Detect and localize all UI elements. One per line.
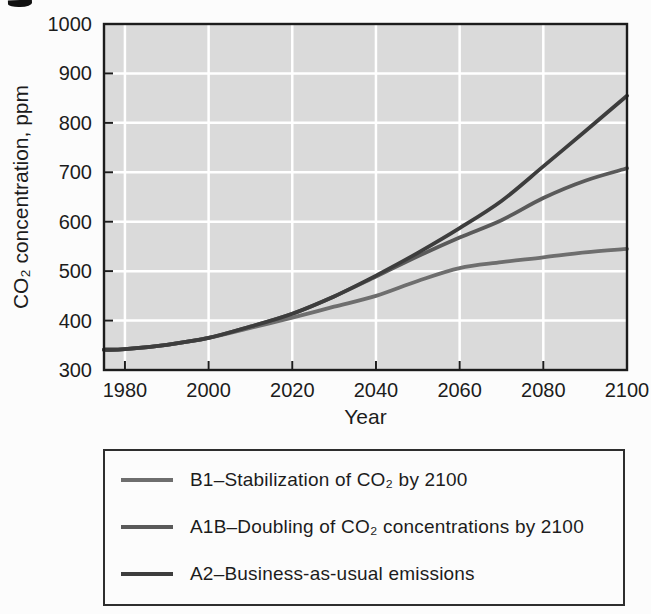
x-tick-label: 2000 <box>186 379 231 401</box>
y-tick-label: 300 <box>59 359 92 381</box>
y-axis-title: CO₂ concentration, ppm <box>9 85 32 309</box>
x-tick-label: 2040 <box>354 379 399 401</box>
x-tick-label: 2020 <box>270 379 315 401</box>
legend-label-a2: A2–Business-as-usual emissions <box>190 563 475 585</box>
legend-label-b1: B1–Stabilization of CO₂ by 2100 <box>190 469 468 491</box>
y-tick-label: 800 <box>59 112 92 134</box>
legend-label-a1b: A1B–Doubling of CO₂ concentrations by 21… <box>190 516 584 538</box>
x-tick-label: 2100 <box>605 379 650 401</box>
x-tick-label: 1980 <box>103 379 148 401</box>
y-tick-label: 700 <box>59 161 92 183</box>
y-tick-label: 500 <box>59 260 92 282</box>
legend-item-b1: B1–Stabilization of CO₂ by 2100 <box>105 456 623 503</box>
co2-scenarios-figure: 1980200020202040206020802100300400500600… <box>0 0 651 614</box>
legend-item-a1b: A1B–Doubling of CO₂ concentrations by 21… <box>105 503 623 550</box>
legend-item-a2: A2–Business-as-usual emissions <box>105 550 623 597</box>
co2-concentration-chart: 1980200020202040206020802100300400500600… <box>0 0 651 440</box>
x-tick-label: 2060 <box>437 379 482 401</box>
y-tick-label: 900 <box>59 62 92 84</box>
legend-line-a2-icon <box>121 572 173 576</box>
y-tick-label: 1000 <box>48 13 93 35</box>
legend-line-b1-icon <box>121 478 173 482</box>
x-tick-label: 2080 <box>521 379 566 401</box>
y-tick-label: 600 <box>59 211 92 233</box>
legend-line-a1b-icon <box>121 525 173 529</box>
y-tick-label: 400 <box>59 310 92 332</box>
legend: B1–Stabilization of CO₂ by 2100 A1B–Doub… <box>103 449 625 606</box>
x-axis-title: Year <box>344 405 386 428</box>
